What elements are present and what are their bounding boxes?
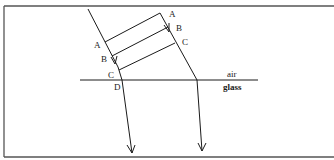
wavefront-b [112, 27, 168, 56]
left-ray [88, 9, 135, 153]
refraction-diagram: A B C D A B C air glass [0, 0, 334, 160]
wavefront-a [105, 13, 160, 42]
label-left-b: B [101, 54, 107, 64]
label-left-c: C [108, 70, 114, 80]
label-air: air [227, 69, 237, 79]
label-right-a: A [169, 9, 176, 19]
label-left-a: A [94, 40, 101, 50]
label-right-c: C [182, 37, 188, 47]
label-left-d: D [114, 82, 121, 92]
right-ray [160, 13, 206, 151]
label-right-b: B [176, 23, 182, 33]
label-glass: glass [223, 82, 242, 92]
wavefront-c [119, 43, 175, 70]
